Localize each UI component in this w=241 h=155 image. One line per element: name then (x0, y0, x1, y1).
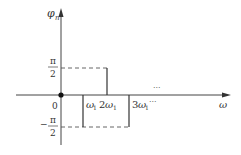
neg-sign: − (40, 119, 48, 129)
ellipsis-above-axis: ··· (153, 83, 161, 92)
pi-half-denominator: 2 (50, 69, 56, 79)
phase-spectrum-diagram: φ n π 2 0 − π 2 ω 1 2 ω 1 3 ω 1 ··· ··· … (0, 0, 241, 155)
origin-dot (58, 92, 63, 97)
x-axis-arrow-icon (222, 93, 231, 98)
tick-2w1-subscript: 1 (113, 104, 117, 111)
ellipsis-after-3w1: ··· (149, 97, 157, 106)
pi-half-numerator: π (50, 56, 56, 66)
tick-2w1-symbol: ω (105, 99, 113, 110)
origin-label: 0 (52, 101, 58, 111)
y-axis-label-subscript: n (55, 14, 60, 22)
y-axis-label: φ (47, 7, 55, 20)
neg-pi-half-numerator: π (50, 115, 56, 125)
x-axis-label: ω (219, 99, 227, 110)
neg-pi-half-denominator: 2 (50, 128, 56, 138)
tick-w1-subscript: 1 (93, 104, 97, 111)
